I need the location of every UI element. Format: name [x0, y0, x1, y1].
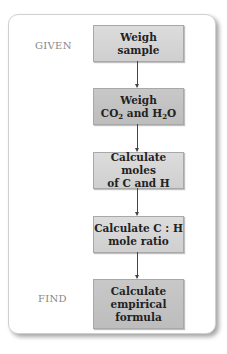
given-label: GIVEN	[35, 40, 72, 51]
step-text: sample	[118, 44, 160, 57]
step-text: of C and H	[107, 177, 170, 190]
step-text: empirical	[111, 298, 167, 311]
step-text: Calculate moles	[94, 151, 183, 177]
step-text: Calculate	[111, 285, 167, 298]
arrow-down-icon	[137, 252, 138, 278]
find-label: FIND	[38, 293, 67, 304]
step-text: Weigh	[120, 31, 157, 44]
step-text: Calculate C : H	[94, 222, 183, 235]
step-calculate-moles: Calculate moles of C and H	[93, 152, 184, 189]
step-text: Weigh	[120, 94, 157, 107]
step-weigh-co2-h2o: Weigh CO2 and H2O	[93, 88, 184, 125]
step-text: CO2 and H2O	[101, 107, 176, 120]
step-empirical-formula: Calculate empirical formula	[93, 279, 184, 329]
arrow-down-icon	[137, 188, 138, 215]
step-text: mole ratio	[108, 235, 169, 248]
step-calculate-ratio: Calculate C : H mole ratio	[93, 216, 184, 253]
arrow-down-icon	[137, 61, 138, 87]
arrow-down-icon	[137, 124, 138, 151]
step-text: formula	[115, 311, 162, 324]
step-weigh-sample: Weigh sample	[93, 25, 184, 62]
